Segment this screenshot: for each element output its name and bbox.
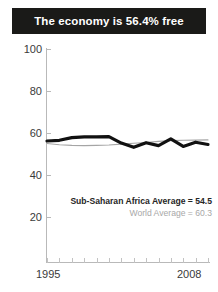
chart-page: The economy is 56.4% free 100 80 60 40 2… [0,0,218,292]
page-title: The economy is 56.4% free [34,15,184,27]
legend-item-sub-saharan-africa: Sub-Saharan Africa Average = 54.5 [52,195,212,207]
plot-area: 100 80 60 40 20 1995 2008 Sub-Saharan Af… [0,40,218,292]
legend-item-world-average: World Average = 60.3 [52,207,212,219]
legend: Sub-Saharan Africa Average = 54.5 World … [52,195,212,219]
title-banner: The economy is 56.4% free [12,8,206,34]
series-svg [0,40,218,292]
